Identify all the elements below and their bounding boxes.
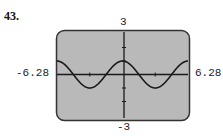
calculator-screen bbox=[0, 0, 223, 136]
screen-background bbox=[57, 31, 190, 121]
